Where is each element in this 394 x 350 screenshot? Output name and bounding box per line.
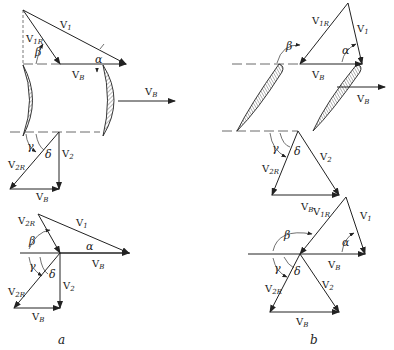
- v1-label: V1: [356, 23, 369, 36]
- alpha-tick-upper: [100, 44, 104, 49]
- beta-arc: [273, 233, 312, 251]
- v1-vector: [38, 214, 129, 253]
- delta-label: δ: [45, 148, 52, 161]
- v1r-label: V1R: [25, 33, 44, 46]
- panel-b-inlet-triangle: V1R V1 β α VB: [232, 3, 369, 82]
- v1r-label: V1R: [311, 15, 330, 28]
- v2r-label: V2R: [7, 286, 26, 299]
- delta-label: δ: [294, 145, 301, 158]
- panel-b: V1R V1 β α VB VB γ δ V2 V2R VB: [222, 3, 385, 347]
- beta-label: β: [34, 46, 41, 59]
- vb2-label: VB: [295, 316, 308, 329]
- velocity-diagram-canvas: V1 V1R β α VB VB γ δ V2 V2R VB: [0, 0, 394, 350]
- panel-b-caption: b: [310, 333, 318, 347]
- delta-arc: [284, 257, 294, 268]
- alpha-label: α: [86, 240, 94, 253]
- alpha-label: α: [342, 44, 350, 57]
- v2r-top-label: V2R: [17, 215, 36, 228]
- v1-label: V1: [75, 217, 88, 230]
- blade-profile-1: [237, 64, 283, 131]
- v2-label: V2: [321, 279, 334, 292]
- delta-label: δ: [49, 268, 56, 281]
- v1-label: V1: [359, 210, 372, 223]
- alpha-label: α: [95, 53, 103, 66]
- gamma-arc-2: [36, 134, 44, 150]
- vb-label: VB: [311, 69, 324, 82]
- vb2-label: VB: [31, 311, 44, 324]
- panel-a-blade-row: VB: [10, 65, 175, 136]
- panel-b-combined-diagram: V1R V1 β α VB γ δ V2 V2R VB: [248, 197, 372, 329]
- v2r-label: V2R: [7, 159, 26, 172]
- panel-a-outlet-triangle: γ δ V2 V2R VB: [7, 132, 74, 204]
- blade-profile-1: [23, 65, 33, 136]
- v1r-label: V1R: [312, 206, 331, 219]
- vb-label: VB: [91, 258, 104, 271]
- vb-label: VB: [35, 191, 48, 204]
- v2-label: V2: [61, 148, 74, 161]
- v1r-vector: [300, 3, 348, 64]
- delta-label: δ: [294, 265, 301, 278]
- v2r-label: V2R: [264, 283, 283, 296]
- vb-label: VB: [300, 201, 313, 214]
- gamma-label: γ: [27, 140, 34, 153]
- vb-label: VB: [71, 69, 84, 82]
- vb-label: VB: [327, 259, 340, 272]
- v2r-vector: [272, 131, 298, 195]
- panel-a-inlet-triangle: V1 V1R β α VB: [23, 10, 126, 82]
- v2-vector: [298, 131, 339, 195]
- blade-vb-label: VB: [144, 86, 157, 99]
- panel-a: V1 V1R β α VB VB γ δ V2 V2R VB: [7, 10, 175, 347]
- panel-b-blade-row: VB: [222, 64, 385, 131]
- v2-label: V2: [62, 280, 75, 293]
- alpha-label: α: [342, 236, 350, 249]
- v2r-label: V2R: [261, 163, 280, 176]
- gamma-arc-2: [280, 133, 290, 147]
- panel-b-outlet-triangle: γ δ V2 V2R VB: [261, 131, 339, 214]
- beta-label: β: [285, 40, 292, 53]
- v2r-vector: [10, 132, 59, 189]
- gamma-label: γ: [29, 260, 36, 273]
- panel-a-caption: a: [58, 333, 65, 347]
- panel-a-combined-diagram: V2R V1 β α VB γ δ V2 V2R VB: [7, 214, 130, 324]
- gamma-label: γ: [272, 142, 279, 155]
- v2-label: V2: [319, 151, 332, 164]
- blade-vb-label: VB: [356, 93, 369, 106]
- gamma-label: γ: [274, 262, 281, 275]
- beta-label: β: [28, 235, 35, 248]
- blade-profile-2: [103, 65, 114, 136]
- beta-label: β: [283, 229, 290, 242]
